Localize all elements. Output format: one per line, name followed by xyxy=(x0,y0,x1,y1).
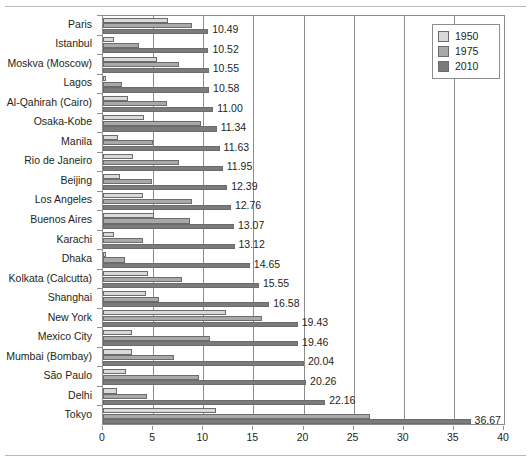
chart-figure: ParisIstanbulMoskva (Moscow)LagosAl-Qahi… xyxy=(0,0,531,463)
data-label: 11.00 xyxy=(217,103,243,114)
data-label: 15.55 xyxy=(263,278,289,289)
legend-label: 2010 xyxy=(455,61,478,72)
legend: 195019752010 xyxy=(432,24,500,79)
data-label: 11.34 xyxy=(221,122,247,133)
x-tick xyxy=(102,426,103,430)
figure-top-rule xyxy=(5,6,526,7)
data-label: 10.49 xyxy=(212,24,238,35)
data-label: 16.58 xyxy=(273,298,299,309)
figure-bottom-rule xyxy=(5,455,526,456)
legend-label: 1950 xyxy=(455,31,478,42)
x-tick xyxy=(503,426,504,430)
x-tick xyxy=(252,426,253,430)
data-label: 14.65 xyxy=(254,259,280,270)
legend-swatch-icon xyxy=(438,61,449,72)
data-label: 10.58 xyxy=(213,83,239,94)
data-label: 20.04 xyxy=(308,356,334,367)
x-tick xyxy=(202,426,203,430)
data-label: 10.52 xyxy=(212,44,238,55)
x-tick-label: 0 xyxy=(99,431,105,443)
data-label: 11.95 xyxy=(227,161,253,172)
legend-swatch-icon xyxy=(438,31,449,42)
x-tick-label: 5 xyxy=(149,431,155,443)
x-tick xyxy=(453,426,454,430)
data-label: 12.39 xyxy=(231,181,257,192)
data-label: 13.07 xyxy=(238,220,264,231)
x-tick-label: 35 xyxy=(447,431,459,443)
data-label: 19.46 xyxy=(302,337,328,348)
value-axis: 0510152025303540 xyxy=(102,426,505,448)
x-tick xyxy=(152,426,153,430)
data-label: 13.12 xyxy=(239,239,265,250)
x-tick-label: 10 xyxy=(196,431,208,443)
legend-item-2010[interactable]: 2010 xyxy=(438,59,494,74)
data-label: 20.26 xyxy=(310,376,336,387)
x-tick-label: 40 xyxy=(497,431,509,443)
x-tick xyxy=(303,426,304,430)
x-tick-label: 25 xyxy=(347,431,359,443)
data-label: 10.55 xyxy=(213,63,239,74)
legend-label: 1975 xyxy=(455,46,478,57)
data-label: 11.63 xyxy=(224,142,250,153)
legend-item-1950[interactable]: 1950 xyxy=(438,29,494,44)
data-label: 12.76 xyxy=(235,200,261,211)
data-label: 19.43 xyxy=(302,317,328,328)
x-tick-label: 20 xyxy=(297,431,309,443)
x-tick-label: 15 xyxy=(247,431,259,443)
x-tick-label: 30 xyxy=(397,431,409,443)
legend-item-1975[interactable]: 1975 xyxy=(438,44,494,59)
data-label: 36.67 xyxy=(475,415,501,426)
legend-swatch-icon xyxy=(438,46,449,57)
x-tick xyxy=(353,426,354,430)
data-label: 22.16 xyxy=(329,395,355,406)
x-tick xyxy=(403,426,404,430)
